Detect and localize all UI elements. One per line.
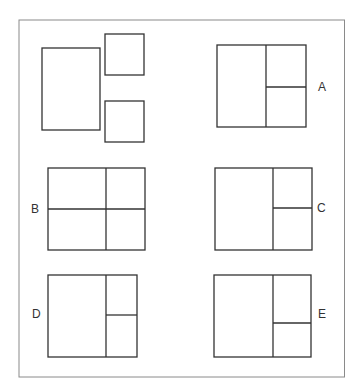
diagram-canvas: A B C D E <box>0 0 363 391</box>
option-d-outline <box>48 275 137 357</box>
small-square-top <box>105 34 144 75</box>
option-e[interactable]: E <box>214 275 326 357</box>
question-pieces <box>42 34 144 142</box>
option-a-label: A <box>318 80 326 94</box>
option-d[interactable]: D <box>32 275 137 357</box>
option-b[interactable]: B <box>31 168 145 250</box>
small-square-bottom <box>105 101 144 142</box>
option-b-label: B <box>31 202 39 216</box>
option-c-outline <box>215 168 312 250</box>
option-d-label: D <box>32 307 41 321</box>
option-e-label: E <box>318 307 326 321</box>
option-e-outline <box>214 275 311 357</box>
large-rectangle <box>42 48 100 130</box>
option-a-outline <box>217 45 306 127</box>
option-a[interactable]: A <box>217 45 326 127</box>
option-c-label: C <box>317 201 326 215</box>
option-c[interactable]: C <box>215 168 326 250</box>
